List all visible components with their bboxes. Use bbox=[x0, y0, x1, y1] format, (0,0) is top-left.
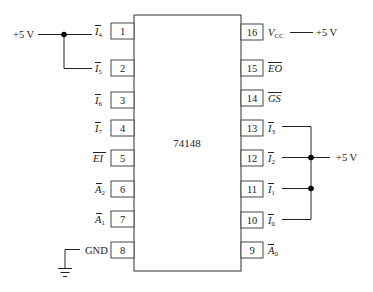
gnd-label: GND bbox=[85, 245, 108, 256]
svg-text:I6: I6 bbox=[94, 95, 103, 108]
svg-text:16: 16 bbox=[247, 27, 258, 38]
pin-13: 13 I3 bbox=[241, 120, 276, 136]
pin-8: 8 GND bbox=[85, 242, 134, 258]
svg-text:I3: I3 bbox=[267, 123, 276, 136]
pin-1: 1 I4 bbox=[94, 23, 134, 39]
chip-name: 74148 bbox=[173, 137, 201, 149]
left-supply-net: +5 V bbox=[13, 29, 92, 69]
pin-signal: I4 bbox=[94, 26, 103, 39]
svg-text:4: 4 bbox=[120, 123, 126, 134]
svg-text:A1: A1 bbox=[94, 214, 105, 227]
svg-text:14: 14 bbox=[247, 93, 258, 104]
pin-11: 11 I1 bbox=[241, 181, 276, 197]
pin-7: 7 A1 bbox=[94, 211, 134, 227]
svg-text:10: 10 bbox=[247, 215, 258, 226]
supply-label-right: +5 V bbox=[336, 152, 358, 163]
svg-text:I7: I7 bbox=[94, 123, 103, 136]
svg-text:GS: GS bbox=[268, 93, 282, 104]
supply-label-left: +5 V bbox=[13, 29, 35, 40]
svg-text:11: 11 bbox=[247, 184, 257, 195]
pin-2: 2 I5 bbox=[94, 60, 134, 76]
pin-5: 5 EI bbox=[92, 150, 134, 166]
pin-4: 4 I7 bbox=[94, 120, 134, 136]
pin-15: 15 EO bbox=[241, 60, 282, 76]
svg-text:EO: EO bbox=[267, 63, 282, 74]
pin-14: 14 GS bbox=[241, 90, 282, 106]
encoder-74148-diagram: 74148 1 I4 2 I5 3 I6 4 I7 5 EI 6 A2 bbox=[0, 0, 373, 292]
svg-text:9: 9 bbox=[249, 245, 254, 256]
junction-dot bbox=[61, 32, 67, 38]
svg-text:3: 3 bbox=[120, 95, 125, 106]
junction-dot bbox=[308, 186, 314, 192]
pin-10: 10 I0 bbox=[241, 212, 276, 228]
pin-3: 3 I6 bbox=[94, 92, 134, 108]
svg-text:2: 2 bbox=[120, 63, 125, 74]
svg-text:13: 13 bbox=[247, 123, 258, 134]
svg-text:A2: A2 bbox=[94, 184, 105, 197]
right-supply-net: +5 V bbox=[282, 127, 358, 220]
pin-12: 12 I2 bbox=[241, 150, 276, 166]
svg-text:VCC: VCC bbox=[268, 27, 284, 40]
pin-6: 6 A2 bbox=[94, 181, 134, 197]
junction-dot bbox=[308, 155, 314, 161]
svg-text:8: 8 bbox=[120, 245, 125, 256]
svg-text:EI: EI bbox=[92, 153, 103, 164]
svg-text:6: 6 bbox=[120, 184, 125, 195]
svg-text:15: 15 bbox=[247, 63, 258, 74]
pin-number: 1 bbox=[120, 26, 125, 37]
svg-text:7: 7 bbox=[120, 214, 125, 225]
svg-text:12: 12 bbox=[247, 153, 258, 164]
svg-text:I1: I1 bbox=[267, 184, 276, 197]
svg-text:I2: I2 bbox=[267, 153, 276, 166]
svg-text:A0: A0 bbox=[267, 245, 278, 258]
vcc-net: +5 V bbox=[290, 27, 338, 38]
ground-icon bbox=[58, 250, 80, 277]
svg-text:I5: I5 bbox=[94, 63, 103, 76]
svg-text:I0: I0 bbox=[267, 215, 276, 228]
pin-9: 9 A0 bbox=[241, 242, 278, 258]
pin-16: 16 VCC bbox=[241, 24, 284, 40]
svg-text:5: 5 bbox=[120, 153, 125, 164]
supply-label-vcc: +5 V bbox=[316, 27, 338, 38]
